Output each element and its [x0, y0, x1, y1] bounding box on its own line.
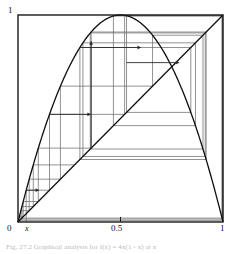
arrow-head-right-3	[137, 46, 140, 50]
cobweb-plot	[0, 0, 237, 254]
x-axis-initial-point-label: x	[25, 224, 29, 233]
figure-caption: Fig. 27.2 Graphical analysis for f(x) = …	[6, 243, 234, 251]
figure-container: 1 0 x 0.5 1 Fig. 27.2 Graphical analysis…	[0, 0, 237, 254]
x-axis-tick-1: 1	[220, 224, 225, 233]
x-axis-tick-05: 0.5	[111, 224, 122, 233]
diagonal-line	[18, 15, 223, 222]
y-axis-tick-1: 1	[8, 6, 13, 15]
x-axis-tick-0: 0	[7, 224, 12, 233]
